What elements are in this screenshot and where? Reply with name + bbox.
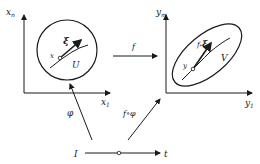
xi-vector-label: ξ [63,35,70,46]
interval-point [117,151,121,155]
left-coordinate-space: xn x1 U x ξ [6,7,110,108]
diagram-canvas: xn x1 U x ξ f ym y1 V y f*ξ φ f∘φ I t [0,0,260,164]
region-v-label: V [221,53,229,63]
parameter-t-label: t [164,149,168,159]
region-u-circle [37,20,97,80]
left-curve [50,45,88,68]
left-y-axis-label: xn [6,7,15,18]
right-x-axis-label: y1 [244,98,254,109]
map-composite-arrow-group: f∘φ [122,99,160,140]
region-u-label: U [72,60,80,70]
pushforward-label: f*ξ [196,39,208,49]
point-y [191,67,195,71]
point-x-label: x [50,52,54,60]
left-x-axis-label: x1 [101,97,110,108]
map-composite-label: f∘φ [122,109,136,118]
point-x [58,56,62,60]
interval-label: I [73,149,78,159]
map-phi-label: φ [67,108,74,118]
map-f-label: f [131,42,137,51]
tangent-map-diagram: xn x1 U x ξ f ym y1 V y f*ξ φ f∘φ I t [0,0,260,164]
point-y-label: y [182,62,188,70]
map-composite-arrow [128,99,160,140]
right-coordinate-space: ym y1 V y f*ξ [155,7,254,109]
map-phi-arrow-group: φ [67,84,92,140]
right-y-axis-label: ym [155,7,167,18]
interval-line-group: I t [73,149,168,159]
map-f-arrow-group: f [113,42,157,56]
